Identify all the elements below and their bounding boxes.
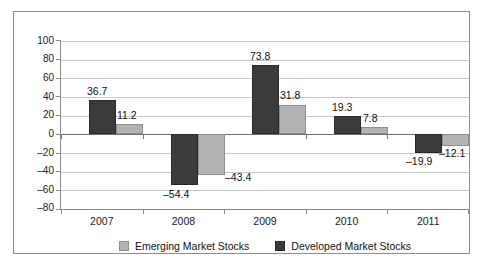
bar-value-label-emerging-2008: –43.4: [225, 172, 251, 183]
y-tick-label: –20: [26, 148, 54, 158]
bar-emerging-2011[interactable]: [442, 134, 469, 145]
chart-legend: Emerging Market Stocks Developed Market …: [61, 236, 469, 256]
chart-frame: 100 80 60 40 20 0 –20 –40 –60 –80: [13, 11, 470, 254]
zero-axis-tick: [387, 134, 388, 139]
bar-emerging-2008[interactable]: [198, 134, 225, 175]
y-tick-label: 0: [26, 129, 54, 139]
gridline: [61, 41, 469, 42]
bar-emerging-2010[interactable]: [361, 127, 388, 134]
bar-developed-2009[interactable]: [252, 65, 279, 134]
x-axis-tick: [468, 209, 469, 214]
x-axis-label-2008: 2008: [153, 215, 213, 227]
x-axis-tick: [61, 209, 62, 214]
zero-gridline: [61, 134, 469, 135]
y-tick-label: 20: [26, 110, 54, 120]
y-tick-label: 60: [26, 73, 54, 83]
bar-value-label-emerging-2011: –12.1: [439, 148, 465, 159]
legend-item-developed[interactable]: Developed Market Stocks: [275, 240, 411, 252]
legend-label-emerging: Emerging Market Stocks: [135, 240, 249, 252]
y-axis-tick-labels: 100 80 60 40 20 0 –20 –40 –60 –80: [24, 12, 54, 265]
x-axis-tick: [224, 209, 225, 214]
bar-value-label-developed-2010: 19.3: [332, 102, 352, 113]
y-tick-label: –40: [26, 166, 54, 176]
bar-value-label-emerging-2009: 31.8: [280, 90, 300, 101]
bar-value-label-developed-2011: –19.9: [406, 156, 432, 167]
y-tick-label: –60: [26, 185, 54, 195]
bar-developed-2008[interactable]: [171, 134, 198, 185]
zero-axis-tick: [306, 134, 307, 139]
x-axis-tick: [387, 209, 388, 214]
bar-value-label-developed-2009: 73.8: [250, 51, 270, 62]
bar-value-label-emerging-2010: 7.8: [363, 113, 378, 124]
x-axis-line: [61, 209, 469, 210]
bar-developed-2010[interactable]: [334, 116, 361, 134]
y-tick-label: 80: [26, 54, 54, 64]
bar-emerging-2007[interactable]: [116, 124, 143, 134]
bar-value-label-developed-2008: –54.4: [163, 189, 189, 200]
y-tick-label: 100: [26, 36, 54, 46]
gridline: [61, 172, 469, 173]
x-axis-label-2007: 2007: [72, 215, 132, 227]
legend-swatch-icon-developed: [275, 241, 285, 251]
legend-swatch-icon-emerging: [119, 241, 129, 251]
bar-value-label-emerging-2007: 11.2: [117, 110, 137, 121]
bar-developed-2007[interactable]: [89, 100, 116, 134]
gridline: [61, 190, 469, 191]
x-axis-label-2009: 2009: [235, 215, 295, 227]
zero-axis-tick: [143, 134, 144, 139]
x-axis-tick: [143, 209, 144, 214]
gridline: [61, 153, 469, 154]
bar-emerging-2009[interactable]: [279, 105, 306, 135]
x-axis-label-2011: 2011: [398, 215, 458, 227]
bar-value-label-developed-2007: 36.7: [87, 86, 107, 97]
zero-axis-tick: [61, 134, 62, 139]
y-tick-label: –80: [26, 203, 54, 213]
legend-label-developed: Developed Market Stocks: [291, 240, 411, 252]
legend-item-emerging[interactable]: Emerging Market Stocks: [119, 240, 249, 252]
plot-area: 36.7 11.2 –54.4 –43.4 73.8 31.8 19.3 7.8…: [61, 41, 469, 209]
chart-figure: 100 80 60 40 20 0 –20 –40 –60 –80: [0, 0, 483, 265]
y-tick-label: 40: [26, 92, 54, 102]
x-axis-label-2010: 2010: [317, 215, 377, 227]
x-axis-tick: [306, 209, 307, 214]
